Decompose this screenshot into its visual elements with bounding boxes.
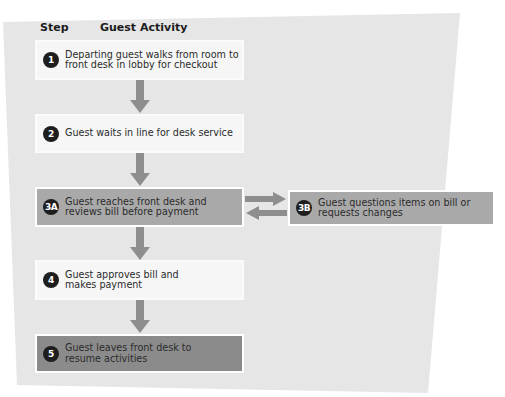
step-4-text: Guest approves bill and makes payment [65,270,195,291]
step-column-header: Step [40,21,69,34]
arrow-down-icon [130,80,150,114]
step-4-box: 4 Guest approves bill and makes payment [35,260,244,300]
arrow-down-icon [130,300,150,334]
step-3a-badge: 3A [43,199,59,215]
step-5-box: 5 Guest leaves front desk to resume acti… [35,334,244,373]
step-3a-text: Guest reaches front desk and reviews bil… [65,197,225,218]
step-2-box: 2 Guest waits in line for desk service [35,114,244,153]
step-3a-box: 3A Guest reaches front desk and reviews … [35,187,244,227]
step-5-text: Guest leaves front desk to resume activi… [65,343,225,364]
arrow-down-icon [130,153,150,187]
step-3b-box: 3B Guest questions items on bill or requ… [288,190,495,226]
step-1-box: 1 Departing guest walks from room to fro… [35,40,244,80]
bidirectional-arrows-icon [245,191,287,221]
step-4-badge: 4 [43,272,59,288]
guest-activity-column-header: Guest Activity [100,21,187,34]
arrow-down-icon [130,227,150,261]
step-1-text: Departing guest walks from room to front… [65,50,242,71]
step-1-badge: 1 [43,52,59,68]
step-5-badge: 5 [43,346,59,362]
step-3b-badge: 3B [296,200,312,216]
step-2-text: Guest waits in line for desk service [65,128,233,139]
step-2-badge: 2 [43,126,59,142]
step-3b-text: Guest questions items on bill or request… [318,198,488,219]
